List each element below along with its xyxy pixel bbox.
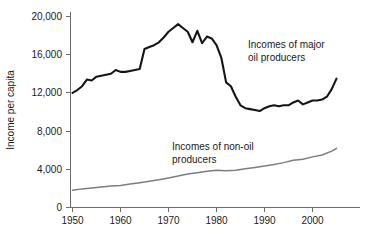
- y-axis-tick-labels: 20,000 16,000 12,000 8,000 4,000 0: [31, 11, 62, 213]
- x-axis-tick-labels: 1950 1960 1970 1980 1990 2000: [61, 215, 324, 226]
- y-axis-ticks: [66, 17, 71, 208]
- y-axis-title: Income per capita: [5, 70, 16, 150]
- annotation-oil-line2: oil producers: [248, 52, 305, 63]
- y-tick-label-0: 0: [56, 202, 62, 213]
- x-tick-label-1970: 1970: [157, 215, 180, 226]
- x-tick-label-1980: 1980: [205, 215, 228, 226]
- y-tick-label-8000: 8,000: [37, 126, 62, 137]
- y-tick-label-16000: 16,000: [31, 49, 62, 60]
- annotation-oil-line1: Incomes of major: [248, 39, 325, 50]
- y-tick-label-4000: 4,000: [37, 164, 62, 175]
- y-tick-label-12000: 12,000: [31, 87, 62, 98]
- annotation-major-oil-producers: Incomes of major oil producers: [248, 39, 325, 63]
- chart-container: 20,000 16,000 12,000 8,000 4,000 0 1950 …: [0, 0, 368, 244]
- annotation-non-oil-producers: Incomes of non-oil producers: [172, 141, 254, 165]
- x-tick-label-1960: 1960: [109, 215, 132, 226]
- annotation-nonoil-line2: producers: [172, 154, 216, 165]
- x-tick-label-1950: 1950: [61, 215, 84, 226]
- x-tick-label-1990: 1990: [253, 215, 276, 226]
- x-axis-ticks: [73, 208, 313, 213]
- series-line-major-oil-producers: [73, 24, 337, 111]
- annotation-nonoil-line1: Incomes of non-oil: [172, 141, 254, 152]
- x-tick-label-2000: 2000: [301, 215, 324, 226]
- y-tick-label-20000: 20,000: [31, 11, 62, 22]
- line-chart: 20,000 16,000 12,000 8,000 4,000 0 1950 …: [0, 0, 368, 244]
